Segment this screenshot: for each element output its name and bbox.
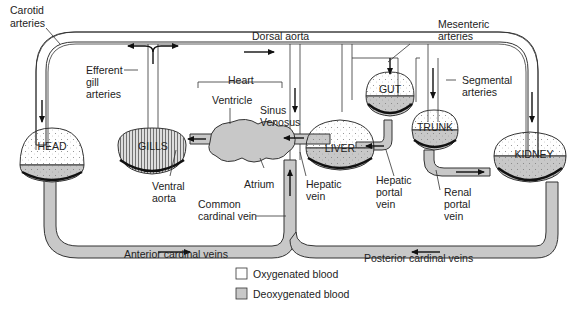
hepatic-portal-label-line1: Hepatic — [376, 174, 412, 186]
renal-portal-label-line2: portal — [444, 198, 470, 210]
legend: Oxygenated blood Deoxygenated blood — [236, 268, 349, 300]
organ-trunk: TRUNK — [412, 110, 458, 150]
legend-label-oxygenated: Oxygenated blood — [253, 268, 338, 280]
legend-swatch-deoxygenated — [236, 288, 247, 299]
mesenteric-label-line1: Mesenteric — [438, 18, 489, 30]
organ-liver: LIVER — [306, 120, 374, 170]
atrium-label: Atrium — [244, 178, 275, 190]
hepatic-portal-label-line3: vein — [376, 198, 395, 210]
segmental-label-line1: Segmental — [462, 74, 512, 86]
carotid-label-line1: Carotid — [10, 4, 44, 16]
gills-label: GILLS — [138, 140, 168, 152]
efferent-label-line2: gill — [86, 76, 99, 88]
renal-portal-label-line3: vein — [444, 210, 463, 222]
ventricle-label: Ventricle — [212, 94, 252, 106]
mesenteric-label-line2: arteries — [438, 30, 473, 42]
renal-portal-label-line1: Renal — [444, 186, 471, 198]
organ-gut: GUT — [366, 72, 414, 116]
dorsal-aorta-label: Dorsal aorta — [252, 30, 309, 42]
arrow-efferent-left — [128, 46, 153, 64]
hepatic-portal-label-line2: portal — [376, 186, 402, 198]
common-cardinal-label-line2: cardinal vein — [198, 210, 257, 222]
arrow-efferent-right — [153, 46, 178, 52]
kidney-label: KIDNEY — [514, 148, 553, 160]
gut-label: GUT — [379, 83, 402, 95]
heart-label: Heart — [228, 74, 254, 86]
efferent-label-line1: Efferent — [86, 64, 123, 76]
segmental-label-line2: arteries — [462, 86, 497, 98]
legend-label-deoxygenated: Deoxygenated blood — [253, 288, 349, 300]
liver-label: LIVER — [325, 142, 356, 154]
hepatic-vein-label-line2: vein — [306, 190, 325, 202]
efferent-label-line3: arteries — [86, 88, 121, 100]
sinus-label-line2: Venosus — [260, 116, 300, 128]
ventral-aorta-label-line1: Ventral — [152, 180, 185, 192]
hepatic-vein-label-line1: Hepatic — [306, 178, 342, 190]
organ-kidney: KIDNEY — [494, 132, 566, 182]
common-cardinal-label-line1: Common — [198, 198, 241, 210]
legend-swatch-oxygenated — [236, 268, 247, 279]
circulation-diagram: HEAD GILLS LIVER GUT TRUNK KIDNEY — [0, 0, 579, 311]
carotid-label-line2: arteries — [10, 17, 45, 29]
anterior-cardinal-label: Anterior cardinal veins — [124, 248, 228, 260]
sinus-label-line1: Sinus — [260, 104, 286, 116]
head-label: HEAD — [37, 140, 67, 152]
trunk-label: TRUNK — [417, 121, 453, 133]
ventral-aorta-label-line2: aorta — [152, 192, 176, 204]
organ-head: HEAD — [20, 128, 84, 182]
posterior-cardinal-label: Posterior cardinal veins — [364, 252, 473, 264]
